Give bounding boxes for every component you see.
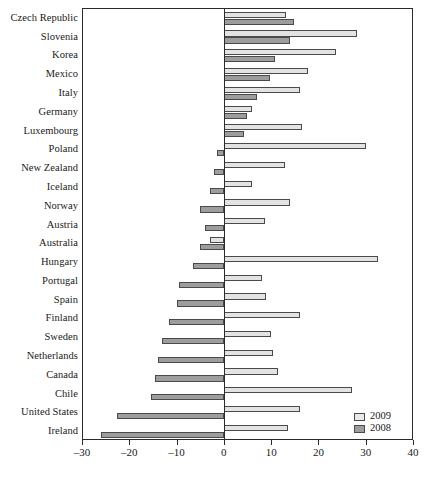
category-label: Italy <box>0 87 78 98</box>
x-axis-tick-label: 20 <box>313 446 324 459</box>
legend-label-2009: 2009 <box>370 410 391 422</box>
bar-row <box>82 215 413 234</box>
legend-item-2008: 2008 <box>354 423 406 434</box>
bar-row <box>82 309 413 328</box>
bar-2008 <box>224 131 244 137</box>
bar-2009 <box>224 12 286 18</box>
zero-reference-line <box>224 8 225 440</box>
category-label: Norway <box>0 200 78 211</box>
bar-row <box>82 139 413 158</box>
bar-2009 <box>224 106 252 112</box>
bar-2008 <box>224 37 290 43</box>
bar-row <box>82 365 413 384</box>
bar-2008 <box>179 282 224 288</box>
legend-swatch-2009-icon <box>354 413 365 421</box>
bar-2009 <box>224 30 357 36</box>
x-axis-tick <box>318 440 319 445</box>
bar-row <box>82 196 413 215</box>
horizontal-bar-chart: Czech RepublicSloveniaKoreaMexicoItalyGe… <box>0 0 426 482</box>
x-axis-tick-label: 30 <box>360 446 371 459</box>
bar-row <box>82 233 413 252</box>
legend-swatch-2008-icon <box>354 425 365 433</box>
bar-row <box>82 327 413 346</box>
bar-2009 <box>224 312 300 318</box>
category-label: Netherlands <box>0 350 78 361</box>
bar-2008 <box>117 413 223 419</box>
bar-2008 <box>177 300 224 306</box>
bar-2009 <box>224 293 267 299</box>
x-axis-tick <box>82 440 83 445</box>
x-axis-tick <box>177 440 178 445</box>
category-label: Finland <box>0 312 78 323</box>
bar-row <box>82 83 413 102</box>
legend-item-2009: 2009 <box>354 411 406 422</box>
bar-row <box>82 27 413 46</box>
x-axis-tick-label: –30 <box>74 446 91 459</box>
bar-2008 <box>200 244 224 250</box>
legend-label-2008: 2008 <box>370 422 391 434</box>
bar-2009 <box>224 49 336 55</box>
x-axis-tick-label: 40 <box>408 446 419 459</box>
bar-2009 <box>224 68 309 74</box>
bar-2008 <box>155 375 224 381</box>
x-axis-tick <box>413 440 414 445</box>
x-axis-tick-label: –10 <box>168 446 185 459</box>
category-label: Australia <box>0 237 78 248</box>
x-axis-tick-label: 0 <box>221 446 227 459</box>
bar-2009 <box>224 199 290 205</box>
bar-row <box>82 384 413 403</box>
bar-2009 <box>224 162 285 168</box>
bar-2008 <box>224 113 248 119</box>
chart-legend: 2009 2008 <box>354 411 406 437</box>
category-label: Poland <box>0 143 78 154</box>
bar-2008 <box>101 432 224 438</box>
bar-2008 <box>224 19 294 25</box>
bar-row <box>82 121 413 140</box>
bar-2009 <box>224 143 366 149</box>
bar-2009 <box>224 406 300 412</box>
bar-2009 <box>224 350 274 356</box>
bar-2009 <box>224 425 288 431</box>
x-axis-tick-labels: –30–20–10010203040 <box>0 446 426 462</box>
bar-2009 <box>224 124 302 130</box>
bar-2009 <box>224 87 301 93</box>
category-label: Germany <box>0 106 78 117</box>
bar-2008 <box>224 94 258 100</box>
category-label: Mexico <box>0 68 78 79</box>
category-label: Ireland <box>0 425 78 436</box>
bar-row <box>82 102 413 121</box>
bar-row <box>82 177 413 196</box>
bar-2009 <box>224 275 262 281</box>
bar-2008 <box>162 338 223 344</box>
bar-2008 <box>210 188 224 194</box>
bar-2008 <box>224 56 276 62</box>
bar-2008 <box>214 169 223 175</box>
bar-row <box>82 346 413 365</box>
category-label: Slovenia <box>0 31 78 42</box>
bar-row <box>82 252 413 271</box>
bar-row <box>82 46 413 65</box>
bar-2009 <box>224 387 352 393</box>
bar-row <box>82 8 413 27</box>
bar-2008 <box>200 206 224 212</box>
category-label: Sweden <box>0 331 78 342</box>
category-label: Iceland <box>0 181 78 192</box>
bar-2009 <box>224 256 378 262</box>
bar-2009 <box>224 368 278 374</box>
x-axis-tick <box>366 440 367 445</box>
category-label: United States <box>0 406 78 417</box>
bar-2009 <box>224 181 252 187</box>
bar-rows-container <box>82 8 413 440</box>
bar-row <box>82 290 413 309</box>
bar-row <box>82 64 413 83</box>
bar-row <box>82 158 413 177</box>
bar-2009 <box>224 331 271 337</box>
category-label: Korea <box>0 49 78 60</box>
category-label: New Zealand <box>0 162 78 173</box>
category-label: Portugal <box>0 275 78 286</box>
x-axis-tick <box>271 440 272 445</box>
x-axis-tick <box>129 440 130 445</box>
category-label: Hungary <box>0 256 78 267</box>
bar-row <box>82 271 413 290</box>
bar-2008 <box>158 357 224 363</box>
